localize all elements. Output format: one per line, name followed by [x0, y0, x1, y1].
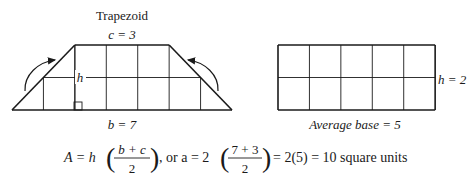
bottom-base-label: b = 7: [108, 117, 137, 132]
formula-connector: , or a = 2: [159, 150, 209, 165]
paren-open-1: (: [106, 142, 115, 173]
area-formula: A = h ( b + c 2 ) , or a = 2 ( 7 + 3 2 )…: [63, 142, 407, 176]
paren-close-1: ): [150, 142, 159, 173]
rectangle-height-label: h = 2: [438, 72, 467, 87]
formula-result: = 2(5) = 10 square units: [273, 150, 407, 166]
frac1-denominator: 2: [129, 161, 136, 176]
frac2-numerator: 7 + 3: [232, 142, 259, 157]
trapezoid-diagram: Trapezoid c = 3 b = 7 h h = 2 Average ba…: [0, 0, 475, 187]
frac2-denominator: 2: [242, 161, 249, 176]
average-base-label: Average base = 5: [308, 117, 401, 132]
frac1-numerator: b + c: [118, 142, 146, 157]
left-rotation-arrow: [25, 60, 55, 91]
rectangle-grid: [278, 45, 435, 110]
right-rotation-arrow: [188, 60, 218, 91]
formula-lhs: A = h: [63, 150, 96, 165]
paren-close-2: ): [262, 142, 271, 173]
height-label: h: [77, 70, 84, 85]
trapezoid-title: Trapezoid: [96, 8, 149, 23]
trapezoid-grid: [12, 45, 232, 110]
top-base-label: c = 3: [108, 27, 136, 42]
paren-open-2: (: [220, 142, 229, 173]
